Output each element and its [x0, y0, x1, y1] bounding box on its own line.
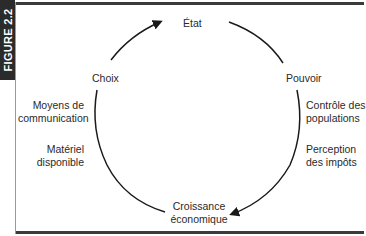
arc-etat-to-pouvoir — [229, 22, 283, 63]
annotation-moyens-communication: Moyens de communication — [18, 99, 84, 125]
annotation-controle-populations: Contrôle des populations — [306, 99, 366, 125]
annotation-materiel-disponible: Matériel disponible — [18, 143, 84, 169]
node-etat: État — [183, 17, 202, 30]
annotation-moyens-line1: Moyens de — [18, 99, 84, 112]
annotation-perception-line2: des impôts — [306, 156, 357, 169]
node-etat-label: État — [183, 17, 202, 29]
node-pouvoir-label: Pouvoir — [286, 72, 322, 84]
arc-pouvoir-to-croissance — [232, 90, 300, 214]
node-croissance-line1: Croissance — [170, 200, 228, 213]
arc-choix-to-etat — [111, 22, 160, 60]
node-croissance-line2: économique — [170, 213, 228, 226]
node-croissance: Croissance économique — [170, 200, 228, 226]
annotation-moyens-line2: communication — [18, 112, 84, 125]
node-choix-label: Choix — [92, 72, 119, 84]
annotation-controle-line1: Contrôle des — [306, 99, 366, 112]
annotation-perception-line1: Perception — [306, 143, 357, 156]
node-choix: Choix — [92, 72, 119, 85]
annotation-materiel-line1: Matériel — [18, 143, 84, 156]
arc-croissance-to-choix — [95, 90, 165, 212]
annotation-controle-line2: populations — [306, 112, 366, 125]
node-pouvoir: Pouvoir — [286, 72, 322, 85]
annotation-materiel-line2: disponible — [18, 156, 84, 169]
annotation-perception-impots: Perception des impôts — [306, 143, 357, 169]
